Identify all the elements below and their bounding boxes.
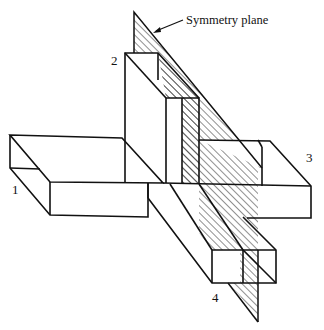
port-4-label: 4	[212, 291, 219, 304]
port-2-label: 2	[111, 54, 118, 67]
port-1-label: 1	[12, 183, 19, 196]
callout-arrow	[153, 20, 183, 33]
junction-drawing	[0, 0, 324, 330]
symmetry-plane-label: Symmetry plane	[186, 14, 268, 27]
diagram-canvas: Symmetry plane 2 1 3 4	[0, 0, 324, 330]
symmetry-plane	[125, 12, 311, 322]
port-3-label: 3	[306, 151, 313, 164]
